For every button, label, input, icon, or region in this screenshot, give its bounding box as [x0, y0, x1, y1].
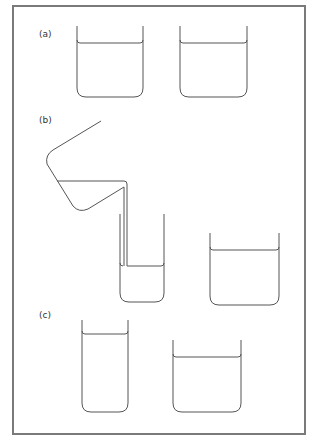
water-surface-and-stream: [57, 181, 127, 266]
water-surface-left: [120, 263, 123, 266]
water-surface: [77, 40, 143, 43]
water-surface: [82, 331, 128, 334]
beaker-a-left: [77, 26, 143, 97]
water-surface: [127, 263, 164, 266]
beaker-c-narrow: [82, 320, 128, 412]
beaker-c-wide: [173, 340, 241, 412]
panel-label-c: (c): [39, 310, 51, 320]
panel-label-b: (b): [39, 115, 52, 125]
panel-label-a: (a): [39, 29, 52, 39]
pouring-beaker: [47, 121, 127, 266]
beaker-b-wide: [210, 233, 279, 305]
beaker-a-right: [180, 26, 247, 97]
conservation-diagram: (a) (b) (c): [0, 0, 313, 443]
water-surface: [173, 354, 241, 357]
water-surface: [180, 40, 247, 43]
water-surface: [210, 247, 279, 250]
